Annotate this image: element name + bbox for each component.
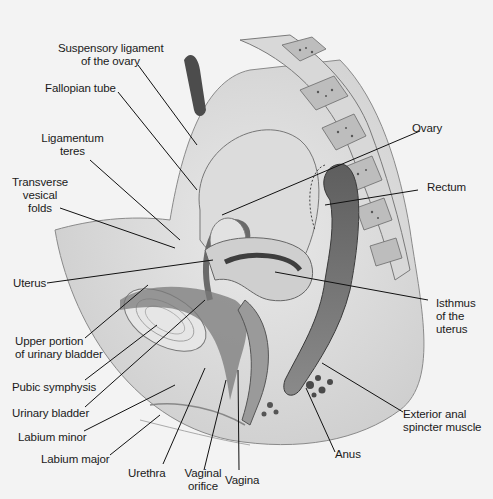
label-transverse-vesical-folds: Transverse vesical folds [12,176,68,215]
label-upper-urinary-bladder: Upper portion of urinary bladder [15,335,103,361]
label-labium-major: Labium major [41,453,109,466]
label-urinary-bladder: Urinary bladder [12,407,89,420]
label-ligamentum-teres: Ligamentum teres [40,132,105,158]
label-labium-minor: Labium minor [18,431,86,444]
label-fallopian-tube: Fallopian tube [45,82,116,95]
label-anus: Anus [335,448,361,461]
label-exterior-anal-sphincter: Exterior anal spincter muscle [403,408,481,434]
anatomy-diagram: Suspensory ligament of the ovary Fallopi… [0,0,493,499]
label-pubic-symphysis: Pubic symphysis [12,381,96,394]
label-urethra: Urethra [128,467,166,480]
label-suspensory-ligament: Suspensory ligament of the ovary [58,42,163,68]
label-ovary: Ovary [412,122,442,135]
label-uterus: Uterus [13,277,46,290]
vessel [184,55,206,116]
label-vaginal-orifice: Vaginal orifice [178,467,228,493]
label-vagina: Vagina [225,474,259,487]
label-isthmus: Isthmus of the uterus [436,297,476,336]
label-rectum: Rectum [427,181,466,194]
